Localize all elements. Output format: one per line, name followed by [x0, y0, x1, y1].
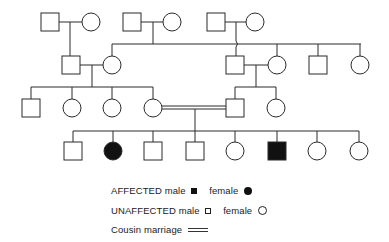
female-symbol [308, 142, 326, 160]
affected-female-icon [244, 187, 252, 195]
gen1-couple-1 [41, 13, 100, 56]
male-symbol [144, 142, 162, 160]
female-symbol [63, 99, 81, 117]
affected-female-symbol [104, 142, 122, 160]
gen1-couple-3 [207, 13, 264, 56]
unaffected-female-icon [258, 206, 267, 215]
male-symbol [186, 142, 204, 160]
pedigree-chart [0, 0, 389, 180]
female-symbol [103, 56, 121, 74]
legend-cousin-label: Cousin marriage [111, 224, 182, 235]
legend-unaffected-label: UNAFFECTED [111, 205, 176, 216]
female-symbol [267, 99, 285, 117]
legend-male-label: male [179, 205, 200, 216]
female-symbol [351, 56, 369, 74]
female-symbol [163, 13, 181, 31]
cousin-marriage-icon [188, 228, 208, 232]
male-symbol [64, 142, 82, 160]
male-symbol [123, 13, 141, 31]
legend-male-label: male [165, 185, 186, 196]
gen1-couple-2 [123, 13, 181, 44]
gen2-left-couple [62, 56, 121, 87]
legend-female-label: female [209, 185, 238, 196]
male-symbol [22, 99, 40, 117]
male-symbol [226, 99, 244, 117]
legend-affected-label: AFFECTED [111, 185, 162, 196]
legend-female-label: female [223, 205, 252, 216]
male-symbol [41, 13, 59, 31]
affected-male-symbol [268, 142, 286, 160]
female-symbol [350, 142, 368, 160]
unaffected-male-icon [205, 208, 211, 214]
cousin-marriage-line [162, 106, 226, 109]
female-symbol [144, 99, 162, 117]
gen2-right-couple [226, 56, 286, 87]
legend-unaffected: UNAFFECTED male female [111, 205, 270, 216]
legend-cousin: Cousin marriage [111, 224, 211, 235]
male-symbol [226, 56, 244, 74]
male-symbol [62, 56, 80, 74]
affected-male-icon [191, 188, 197, 194]
female-symbol [268, 56, 286, 74]
female-symbol [82, 13, 100, 31]
male-symbol [207, 13, 225, 31]
female-symbol [103, 99, 121, 117]
legend-affected: AFFECTED male female [111, 185, 255, 196]
female-symbol [226, 142, 244, 160]
female-symbol [246, 13, 264, 31]
male-symbol [309, 56, 327, 74]
